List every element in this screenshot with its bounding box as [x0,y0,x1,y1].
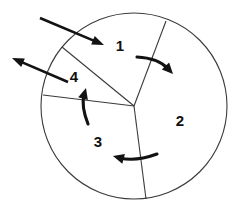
arrow-outward-left-head [12,58,25,67]
arrow-curved-sector-1-to-2-shaft [137,57,168,69]
arrow-curved-sector-2-to-3-shaft [120,154,157,159]
arrow-inward-top-left-shaft [40,18,96,42]
arrow-curved-sector-2-to-3-head [113,154,125,164]
arrow-curved-sector-3-to-4 [78,88,88,124]
arrow-curved-sector-3-to-4-head [78,88,88,100]
sector-4-label: 4 [70,68,79,85]
sector-2-label: 2 [176,112,184,129]
arrow-curved-sector-1-to-2 [137,57,173,74]
arrow-curved-sector-2-to-3 [113,154,157,164]
sector-3-label: 3 [94,133,102,150]
arrow-inward-top-left-head [91,36,104,45]
divider-line-sector-2-3 [134,106,146,199]
divider-line-sector-3-4 [43,95,134,106]
arrow-outward-left [12,58,68,82]
sector-1-label: 1 [116,37,124,54]
diagram-canvas: 1 2 3 4 [0,0,240,209]
arrows-group [12,18,173,164]
arrow-outward-left-shaft [20,61,68,82]
sector-diagram-figure: 1 2 3 4 [0,0,240,209]
